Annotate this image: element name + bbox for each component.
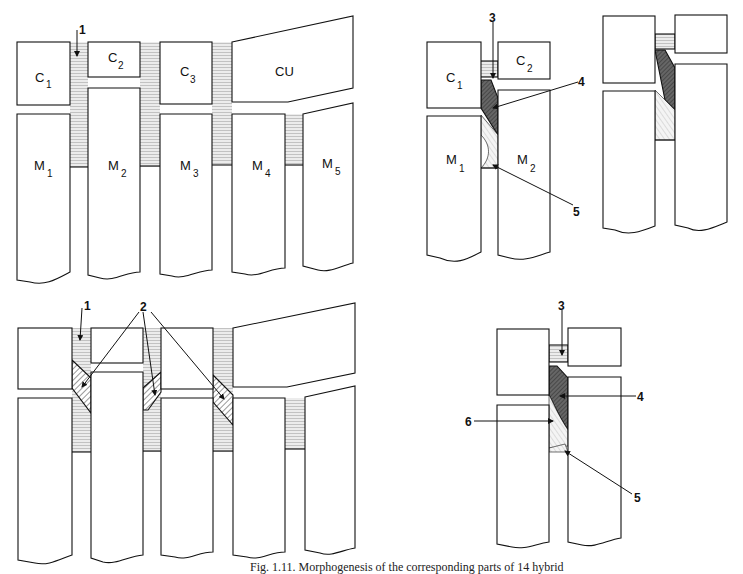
panel-d bbox=[18, 303, 355, 564]
label-c2: C bbox=[516, 53, 525, 68]
panel-b bbox=[427, 22, 578, 261]
label-m2-sub: 2 bbox=[121, 168, 127, 179]
label-c1: C bbox=[446, 70, 455, 85]
callout-5: 5 bbox=[573, 205, 580, 219]
label-m5: M bbox=[322, 156, 333, 171]
gap-fill bbox=[140, 42, 160, 167]
gap-fill bbox=[285, 398, 305, 450]
label-m4: M bbox=[252, 158, 263, 173]
cell-m1 bbox=[18, 398, 72, 564]
callout-3: 3 bbox=[489, 11, 496, 25]
cell-right-lower bbox=[675, 64, 727, 230]
cell-m1 bbox=[427, 116, 481, 261]
cell-m1 bbox=[17, 114, 70, 283]
gap-fill bbox=[212, 42, 232, 165]
cell-c2 bbox=[91, 328, 143, 363]
panel-a bbox=[17, 16, 353, 283]
callout-1: 1 bbox=[79, 23, 86, 37]
label-m1-sub: 1 bbox=[459, 163, 465, 174]
callout-6: 6 bbox=[465, 415, 472, 429]
callout-4: 4 bbox=[637, 390, 644, 404]
label-c1: C bbox=[35, 70, 44, 85]
label-cu: CU bbox=[275, 64, 294, 79]
cell-right-lower bbox=[568, 377, 621, 546]
callout-3: 3 bbox=[558, 299, 565, 313]
panel-c bbox=[603, 15, 727, 233]
cell-left-lower bbox=[603, 91, 655, 233]
callout-5: 5 bbox=[634, 491, 641, 505]
cell-m5 bbox=[303, 103, 353, 271]
label-m2: M bbox=[517, 152, 528, 167]
cell-right-upper bbox=[568, 328, 621, 366]
panel-d-labels: 1 2 bbox=[84, 299, 147, 314]
zone-3 bbox=[655, 34, 675, 49]
zone-3 bbox=[480, 61, 498, 77]
cell-c1 bbox=[18, 328, 72, 389]
figure-caption: Fig. 1.11. Morphogenesis of the correspo… bbox=[250, 560, 743, 574]
gap-fill bbox=[285, 114, 303, 166]
label-c2: C bbox=[108, 50, 117, 65]
cell-c3 bbox=[161, 328, 213, 389]
label-c2-sub: 2 bbox=[527, 63, 533, 74]
zone-3 bbox=[549, 345, 568, 362]
label-m1-sub: 1 bbox=[47, 168, 53, 179]
cell-right-upper bbox=[675, 15, 727, 53]
cell-cu bbox=[233, 303, 355, 387]
cell-m2 bbox=[498, 90, 550, 259]
cell-cu bbox=[232, 16, 353, 102]
label-m2: M bbox=[108, 158, 119, 173]
label-c3-sub: 3 bbox=[190, 74, 196, 85]
label-m1: M bbox=[34, 158, 45, 173]
label-c1-sub: 1 bbox=[46, 79, 52, 90]
callout-1: 1 bbox=[84, 299, 91, 313]
callout-2: 2 bbox=[140, 300, 147, 314]
label-m4-sub: 4 bbox=[265, 168, 271, 179]
label-m3: M bbox=[180, 158, 191, 173]
cell-m4 bbox=[232, 114, 285, 275]
cell-left-lower bbox=[497, 405, 549, 548]
panel-e bbox=[474, 310, 636, 548]
label-m2-sub: 2 bbox=[530, 163, 536, 174]
gap-fill bbox=[70, 42, 88, 167]
cell-left-upper bbox=[497, 329, 549, 395]
cell-left-upper bbox=[603, 16, 655, 83]
cell-m5 bbox=[305, 386, 355, 554]
label-m1: M bbox=[446, 152, 457, 167]
cell-m4 bbox=[233, 398, 285, 558]
label-m5-sub: 5 bbox=[335, 166, 341, 177]
label-c1-sub: 1 bbox=[457, 80, 463, 91]
callout-4: 4 bbox=[578, 75, 585, 89]
label-m3-sub: 3 bbox=[193, 168, 199, 179]
cell-m2 bbox=[91, 372, 143, 563]
label-c3: C bbox=[180, 64, 189, 79]
cell-m2 bbox=[88, 88, 140, 279]
label-c2-sub: 2 bbox=[118, 60, 124, 71]
cell-m3 bbox=[161, 398, 213, 558]
cell-m3 bbox=[160, 114, 212, 277]
